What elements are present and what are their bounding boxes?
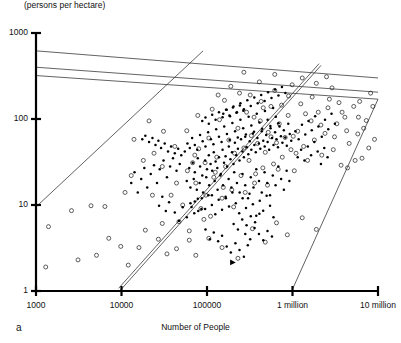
data-point-filled <box>237 148 240 151</box>
data-point-open <box>187 238 191 242</box>
data-point-filled <box>280 178 283 181</box>
data-point-open <box>152 151 156 155</box>
data-point-open <box>169 193 173 197</box>
data-point-filled <box>225 109 228 112</box>
data-point-open <box>46 225 50 229</box>
data-point-open <box>371 104 375 108</box>
data-point-filled <box>161 195 164 198</box>
data-point-filled <box>267 91 270 94</box>
data-point-open <box>259 99 263 103</box>
data-point-filled <box>256 137 259 140</box>
data-point-open <box>89 204 93 208</box>
data-point-filled <box>263 145 266 148</box>
data-point-filled <box>191 161 194 164</box>
data-point-open <box>275 141 279 145</box>
data-point-filled <box>253 131 256 134</box>
data-point-open <box>340 110 344 114</box>
data-point-filled <box>254 221 257 224</box>
data-point-filled <box>271 137 274 140</box>
data-point-filled <box>321 136 324 139</box>
data-point-filled <box>141 138 144 141</box>
data-point-filled <box>272 174 275 177</box>
data-point-open <box>275 221 279 225</box>
data-point-filled <box>168 201 171 204</box>
data-point-open <box>360 156 364 160</box>
data-point-open <box>185 169 189 173</box>
data-point-filled <box>258 142 261 145</box>
data-point-filled <box>271 235 274 238</box>
data-point-filled <box>227 178 230 181</box>
data-point-filled <box>269 194 272 197</box>
data-point-filled <box>303 159 306 162</box>
data-point-open <box>185 129 189 133</box>
data-point-filled <box>218 136 221 139</box>
data-point-filled <box>301 123 304 126</box>
data-point-filled <box>143 167 146 170</box>
data-point-filled <box>186 142 189 145</box>
data-point-filled <box>158 168 161 171</box>
data-point-filled <box>188 167 191 170</box>
data-point-filled <box>290 139 293 142</box>
data-point-filled <box>234 242 237 245</box>
data-point-filled <box>174 152 177 155</box>
data-point-filled <box>260 94 263 97</box>
data-point-filled <box>238 159 241 162</box>
data-point-open <box>220 196 224 200</box>
data-point-filled <box>334 123 337 126</box>
data-point-filled <box>201 197 204 200</box>
data-point-open <box>236 256 240 260</box>
data-point-filled <box>266 141 269 144</box>
data-point-open <box>358 99 362 103</box>
data-point-filled <box>232 163 235 166</box>
data-point-open <box>273 72 277 76</box>
data-point-filled <box>201 174 204 177</box>
data-point-filled <box>228 145 231 148</box>
data-point-filled <box>199 134 202 137</box>
data-point-filled <box>281 86 284 89</box>
data-point-open <box>220 246 224 250</box>
data-point-open <box>44 265 48 269</box>
data-point-filled <box>238 191 241 194</box>
data-point-open <box>141 158 145 162</box>
data-point-open <box>300 216 304 220</box>
data-point-filled <box>244 136 247 139</box>
data-point-open <box>232 205 236 209</box>
data-point-filled <box>330 113 333 116</box>
data-point-filled <box>172 157 175 160</box>
data-point-filled <box>153 164 156 167</box>
data-point-filled <box>253 144 256 147</box>
data-point-open <box>243 190 247 194</box>
data-point-filled <box>221 148 224 151</box>
data-point-filled <box>255 151 258 154</box>
data-point-filled <box>272 107 275 110</box>
data-point-filled <box>245 224 248 227</box>
data-point-filled <box>307 120 310 123</box>
data-point-filled <box>221 234 224 237</box>
data-point-filled <box>237 136 240 139</box>
data-point-open <box>252 115 256 119</box>
data-point-filled <box>253 96 256 99</box>
data-point-open <box>325 75 329 79</box>
data-point-filled <box>211 170 214 173</box>
data-point-filled <box>262 139 265 142</box>
data-point-filled <box>200 208 203 211</box>
data-point-filled <box>180 154 183 157</box>
data-point-filled <box>253 227 256 230</box>
data-point-open <box>272 162 276 166</box>
data-point-open <box>76 258 80 262</box>
data-point-filled <box>213 231 216 234</box>
data-point-filled <box>207 131 210 134</box>
data-point-filled <box>218 156 221 159</box>
data-point-filled <box>228 205 231 208</box>
data-point-filled <box>191 137 194 140</box>
data-point-open <box>160 165 164 169</box>
data-point-open <box>286 113 290 117</box>
data-point-open <box>343 115 347 119</box>
data-point-filled <box>234 130 237 133</box>
data-point-filled <box>194 144 197 147</box>
data-point-filled <box>222 184 225 187</box>
data-point-filled <box>310 154 313 157</box>
data-point-open <box>95 253 99 257</box>
data-point-filled <box>197 198 200 201</box>
